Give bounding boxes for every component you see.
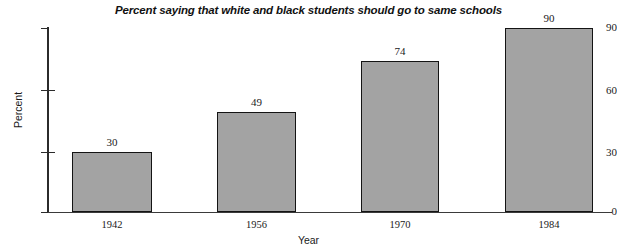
x-tick-label-1984: 1984	[505, 219, 593, 230]
bar-value-1942: 30	[72, 136, 152, 148]
y-tick-mark-90	[41, 28, 48, 29]
x-axis-title: Year	[0, 234, 617, 246]
y-tick-mark-30	[41, 152, 48, 153]
bar-value-1970: 74	[361, 45, 439, 57]
y-tick-mark-60-inner	[49, 90, 55, 91]
x-tick-label-1956: 1956	[217, 219, 296, 230]
bar-1984	[505, 28, 593, 212]
y-axis-line	[47, 27, 49, 213]
bar-value-1984: 90	[505, 12, 593, 24]
bar-1970	[361, 61, 439, 212]
x-tick-label-1970: 1970	[361, 219, 439, 230]
y-axis-title: Percent	[12, 75, 24, 145]
y-tick-mark-60	[41, 90, 48, 91]
bar-1956	[217, 112, 296, 212]
bar-chart-figure: Percent saying that white and black stud…	[0, 0, 617, 250]
bar-1942	[72, 152, 152, 212]
x-tick-label-1942: 1942	[72, 219, 152, 230]
y-tick-mark-0	[41, 212, 48, 213]
bar-value-1956: 49	[217, 96, 296, 108]
y-tick-mark-30-inner	[49, 152, 55, 153]
